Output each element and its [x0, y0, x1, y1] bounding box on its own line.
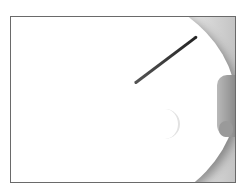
- photo-frame: [10, 16, 236, 183]
- thumb: [219, 121, 233, 137]
- paper-circle: [10, 16, 236, 183]
